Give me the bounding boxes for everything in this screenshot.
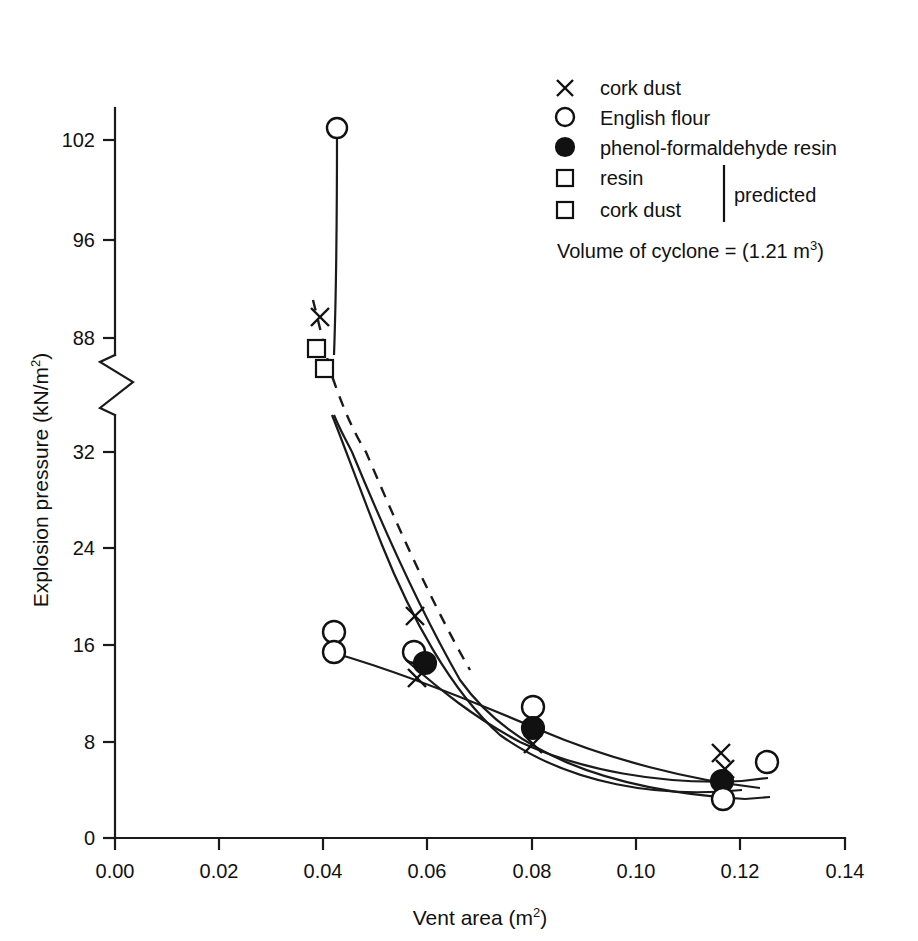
legend-label-cork-dust: cork dust <box>600 77 682 99</box>
x-tick-marks <box>115 838 845 850</box>
y-tick-label-16: 16 <box>73 634 95 656</box>
legend: cork dust English flour phenol-formaldeh… <box>556 77 837 262</box>
marker-cork-dust-120-high <box>712 744 730 762</box>
y-tick-label-0: 0 <box>84 827 95 849</box>
x-axis-title-tail: ) <box>540 906 547 929</box>
x-tick-label-006: 0.06 <box>408 860 447 882</box>
legend-marker-square-cork-dust <box>557 202 573 218</box>
legend-label-resin: resin <box>600 167 643 189</box>
y-tick-label-24: 24 <box>73 537 95 559</box>
curve-english-flour-upper <box>334 129 337 355</box>
y-tick-labels: 0 8 16 24 32 88 96 102 <box>62 129 95 849</box>
marker-english-flour-point <box>327 118 347 138</box>
y-axis-title: Explosion pressure (kN/m2) <box>28 353 52 608</box>
x-axis-title-base: Vent area (m <box>413 906 533 929</box>
x-tick-label-002: 0.02 <box>200 860 239 882</box>
legend-label-phenol-resin: phenol-formaldehyde resin <box>600 137 837 159</box>
data-markers <box>308 118 778 810</box>
x-tick-label-008: 0.08 <box>513 860 552 882</box>
legend-label-english-flour: English flour <box>600 107 710 129</box>
y-tick-label-32: 32 <box>73 441 95 463</box>
y-tick-label-88: 88 <box>73 327 95 349</box>
x-tick-label-014: 0.14 <box>826 860 865 882</box>
y-tick-label-102: 102 <box>62 129 95 151</box>
marker-flour-082 <box>522 696 544 718</box>
curve-predicted-dashed <box>313 300 470 670</box>
legend-marker-filled-circle <box>556 138 574 156</box>
curve-flour-low-branch <box>334 653 760 788</box>
legend-marker-open-circle <box>556 108 574 126</box>
chart-figure: 0 8 16 24 32 88 96 102 0.00 0.02 0.04 0.… <box>0 0 918 941</box>
legend-label-predicted: predicted <box>734 184 816 206</box>
curve-phenol-resin <box>406 660 742 782</box>
y-tick-marks <box>103 140 115 838</box>
svg-text:Explosion pressure (kN/m2): Explosion pressure (kN/m2) <box>28 353 52 608</box>
marker-predicted-cork-dust-point <box>316 360 333 377</box>
marker-flour-low-b <box>323 641 345 663</box>
y-tick-label-8: 8 <box>84 731 95 753</box>
legend-marker-square-resin <box>557 170 573 186</box>
legend-note: Volume of cyclone = (1.21 m3) <box>557 238 824 262</box>
y-axis-title-base: Explosion pressure (kN/m <box>29 367 52 607</box>
marker-cork-dust-062-high <box>406 607 424 625</box>
curve-english-flour-lower <box>334 415 745 799</box>
y-axis-title-tail: ) <box>29 353 52 360</box>
curve-tail-resin <box>742 778 768 781</box>
marker-predicted-resin-point <box>308 340 325 357</box>
marker-flour-low-a <box>323 621 345 643</box>
marker-cork-dust-point <box>311 308 329 326</box>
legend-note-tail: ) <box>817 240 824 262</box>
chart-canvas: 0 8 16 24 32 88 96 102 0.00 0.02 0.04 0.… <box>0 0 918 941</box>
x-axis-title-sup: 2 <box>533 905 540 920</box>
x-axis-title: Vent area (m2) <box>413 905 547 929</box>
marker-flour-125 <box>756 751 778 773</box>
legend-note-sup: 3 <box>810 238 817 253</box>
x-tick-label-010: 0.10 <box>617 860 656 882</box>
y-tick-label-96: 96 <box>73 229 95 251</box>
legend-note-base: Volume of cyclone = (1.21 m <box>557 240 810 262</box>
svg-text:Vent area (m2): Vent area (m2) <box>413 905 547 929</box>
x-tick-label-000: 0.00 <box>96 860 135 882</box>
curve-tail-flour <box>745 797 770 799</box>
x-tick-label-004: 0.04 <box>304 860 343 882</box>
legend-marker-cross <box>557 80 573 96</box>
y-axis-title-sup: 2 <box>28 360 43 367</box>
marker-flour-120 <box>712 788 734 810</box>
axes-group <box>100 108 845 838</box>
x-tick-labels: 0.00 0.02 0.04 0.06 0.08 0.10 0.12 0.14 <box>96 860 865 882</box>
legend-label-cork-dust-predicted: cork dust <box>600 199 682 221</box>
x-tick-label-012: 0.12 <box>721 860 760 882</box>
y-axis-break-zigzag <box>100 355 133 415</box>
